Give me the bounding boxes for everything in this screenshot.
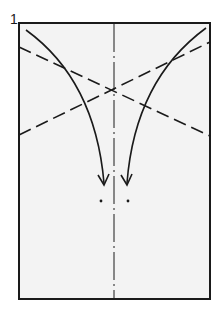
origami-diagram bbox=[0, 0, 222, 310]
target-dot-left bbox=[100, 200, 103, 203]
target-dot-right bbox=[127, 200, 130, 203]
